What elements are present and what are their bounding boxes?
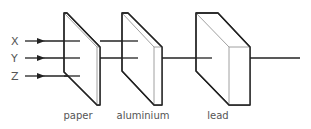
label-lead: lead: [207, 110, 228, 121]
aluminium-sheet: [122, 13, 162, 105]
radiation-absorption-diagram: X Y Z: [0, 0, 311, 129]
label-paper: paper: [63, 110, 93, 121]
ray-label-z: Z: [11, 70, 19, 83]
ray-label-x: X: [11, 35, 19, 48]
label-aluminium: aluminium: [117, 110, 170, 121]
paper-sheet: [64, 13, 100, 105]
lead-block: [196, 13, 250, 105]
ray-label-y: Y: [10, 52, 18, 65]
